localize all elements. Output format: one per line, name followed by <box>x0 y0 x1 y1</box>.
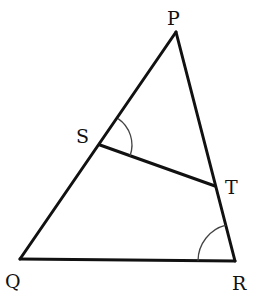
segment-pq <box>20 32 176 259</box>
angle-mark-r <box>198 225 226 261</box>
angle-mark-s <box>118 119 132 156</box>
triangle-diagram: P S T Q R <box>0 0 262 302</box>
segment-pr <box>176 32 235 261</box>
diagram-canvas: P S T Q R <box>0 0 262 302</box>
label-q: Q <box>5 270 21 292</box>
label-t: T <box>225 176 238 198</box>
label-p: P <box>167 7 180 29</box>
label-s: S <box>76 125 89 147</box>
segment-st <box>100 145 215 186</box>
segment-qr <box>20 259 235 261</box>
label-r: R <box>232 272 247 294</box>
